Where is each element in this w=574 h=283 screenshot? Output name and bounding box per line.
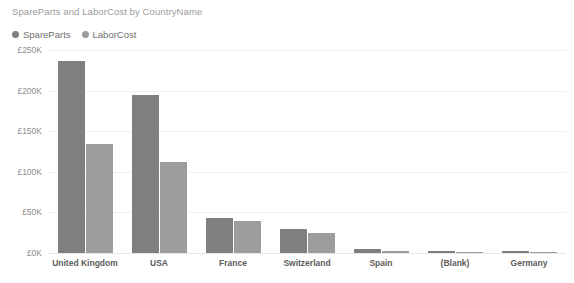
bar[interactable] — [354, 249, 381, 253]
chart-legend: SpareParts LaborCost — [12, 28, 136, 40]
bar[interactable] — [382, 251, 409, 253]
bar[interactable] — [280, 229, 307, 253]
gridline — [48, 253, 566, 254]
x-axis-tick-label: United Kingdom — [52, 258, 118, 268]
x-axis-tick-label: Spain — [369, 258, 392, 268]
y-axis-tick-label: £100K — [17, 167, 42, 177]
legend-label-spareparts: SpareParts — [23, 29, 71, 40]
chart-title: SpareParts and LaborCost by CountryName — [12, 6, 202, 17]
x-axis-tick-label: Germany — [511, 258, 548, 268]
x-axis-tick-label: Switzerland — [283, 258, 330, 268]
bar[interactable] — [234, 221, 261, 253]
y-axis-tick-label: £50K — [22, 207, 42, 217]
plot-area — [48, 50, 566, 253]
y-axis-tick-label: £150K — [17, 126, 42, 136]
legend-label-laborcost: LaborCost — [93, 29, 137, 40]
bar[interactable] — [530, 252, 557, 254]
y-axis-tick-label: £250K — [17, 45, 42, 55]
legend-swatch-laborcost — [82, 31, 89, 38]
x-axis-tick-label: USA — [150, 258, 168, 268]
bar[interactable] — [58, 61, 85, 253]
bar[interactable] — [160, 162, 187, 253]
bar[interactable] — [428, 251, 455, 253]
legend-item-spareparts[interactable]: SpareParts — [12, 29, 71, 40]
x-axis-tick-label: France — [219, 258, 247, 268]
bar[interactable] — [502, 251, 529, 253]
y-axis-tick-label: £200K — [17, 86, 42, 96]
bars-layer — [48, 50, 566, 253]
y-axis-tick-label: £0K — [27, 248, 42, 258]
chart-card: SpareParts and LaborCost by CountryName … — [0, 0, 574, 283]
bar[interactable] — [308, 233, 335, 253]
bar[interactable] — [132, 95, 159, 253]
bar[interactable] — [206, 218, 233, 253]
legend-item-laborcost[interactable]: LaborCost — [82, 29, 137, 40]
y-axis: £0K£50K£100K£150K£200K£250K — [0, 50, 44, 253]
bar[interactable] — [86, 144, 113, 253]
x-axis: United KingdomUSAFranceSwitzerlandSpain(… — [48, 258, 566, 272]
legend-swatch-spareparts — [12, 31, 19, 38]
x-axis-tick-label: (Blank) — [441, 258, 470, 268]
bar[interactable] — [456, 252, 483, 254]
